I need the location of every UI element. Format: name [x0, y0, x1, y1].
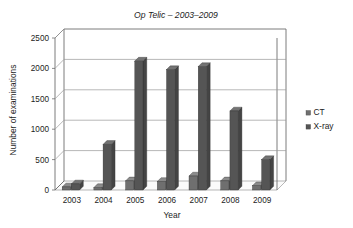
y-tick-label-2500: 2500: [31, 34, 50, 43]
bar-ct-2005-front: [126, 181, 134, 190]
bar-xray-2008: [230, 107, 242, 190]
bar-xray-2009-front: [262, 160, 270, 190]
bar-xray-2005-side: [143, 57, 147, 190]
bar-xray-2006-front: [167, 70, 175, 190]
chart-container: Op Telic – 2003–2009: [0, 0, 353, 228]
x-tick-label-2007: 2007: [190, 196, 209, 205]
y-tick-label-2000: 2000: [31, 64, 50, 73]
bar-xray-2005: [135, 57, 147, 190]
legend-label-xray[interactable]: X-ray: [314, 121, 335, 131]
bar-xray-2005-front: [135, 61, 143, 190]
bar-xray-2004-front: [103, 144, 111, 190]
x-tick-label-2003: 2003: [63, 196, 82, 205]
x-tick-label-2005: 2005: [126, 196, 145, 205]
bar-xray-2009: [262, 156, 274, 190]
bar-xray-2006: [167, 66, 179, 190]
x-tick-label-2009: 2009: [253, 196, 272, 205]
y-tick-label-0: 0: [44, 186, 49, 195]
y-axis-label: Number of examinations: [8, 65, 18, 156]
y-tick-label-500: 500: [35, 156, 49, 165]
bar-xray-2007-front: [198, 67, 206, 190]
x-tick-label-2004: 2004: [94, 196, 113, 205]
bar-xray-2008-side: [238, 107, 242, 190]
chart-title: Op Telic – 2003–2009: [134, 10, 218, 20]
bar-xray-2006-side: [175, 66, 179, 190]
x-tick-label-2008: 2008: [221, 196, 240, 205]
bar-ct-2003-front: [62, 187, 70, 190]
bar-ct-2006-front: [157, 181, 165, 190]
bar-xray-2007: [198, 63, 210, 190]
bar-xray-2008-front: [230, 111, 238, 190]
x-tick-label-2006: 2006: [158, 196, 177, 205]
bar-ct-2008-front: [221, 181, 229, 190]
x-axis-label: Year: [164, 210, 181, 220]
bar-xray-2007-side: [206, 63, 210, 190]
bar-xray-2004: [103, 141, 115, 190]
legend-swatch-xray: [306, 125, 311, 130]
bar-ct-2009-front: [252, 186, 260, 190]
bar-xray-2009-side: [270, 156, 274, 190]
bar-ct-2007-front: [189, 176, 197, 190]
bar-chart: Op Telic – 2003–2009: [0, 0, 353, 228]
bar-xray-2003-front: [71, 184, 79, 190]
legend-label-ct[interactable]: CT: [314, 107, 325, 117]
bar-ct-2004-front: [94, 188, 102, 190]
y-tick-label-1000: 1000: [31, 125, 50, 134]
legend-swatch-ct: [306, 111, 311, 116]
bar-xray-2004-side: [111, 141, 115, 190]
y-tick-label-1500: 1500: [31, 95, 50, 104]
